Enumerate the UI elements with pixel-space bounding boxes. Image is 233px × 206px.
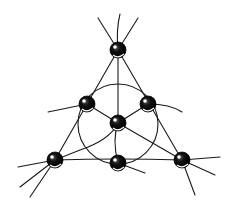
node-mid-left (79, 96, 95, 112)
node-bottom-left (47, 152, 63, 168)
node-bottom-middle (110, 155, 126, 171)
node-bottom-right (174, 152, 190, 168)
node-top (110, 42, 126, 58)
fano-diagram (0, 0, 233, 206)
edge-top-bottommiddle (115, 50, 118, 163)
node-center (110, 115, 126, 131)
node-mid-right (140, 96, 156, 112)
